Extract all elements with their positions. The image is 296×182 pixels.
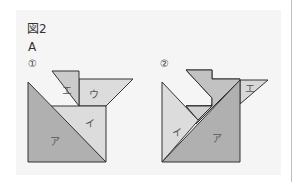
arrangement-2: イ ア エ — [162, 70, 268, 162]
label-a-2: ア — [212, 133, 222, 144]
label-i-2: イ — [172, 127, 182, 138]
label-e-2: エ — [245, 83, 255, 94]
label-a-1: ア — [50, 136, 60, 147]
puzzle-diagram: エ ウ イ ア イ ア エ — [0, 0, 296, 182]
piece-u-1 — [79, 79, 133, 106]
label-i-1: イ — [85, 118, 95, 129]
label-e-1: エ — [62, 85, 72, 96]
label-u-1: ウ — [89, 89, 99, 100]
arrangement-1: エ ウ イ ア — [28, 71, 133, 162]
